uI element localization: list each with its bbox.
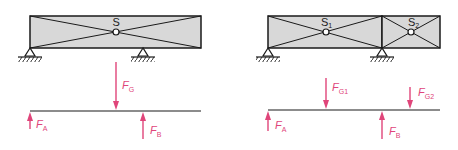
weight-force-1-label: FG1 — [332, 81, 348, 95]
pin-support-icon — [18, 48, 42, 62]
roller-support-icon — [370, 48, 394, 62]
weight-force-2-arrow-icon — [407, 87, 413, 109]
diagram-canvas: S FG FA FB — [0, 0, 458, 150]
weight-force-label: FG — [122, 79, 134, 93]
pin-support-icon — [256, 48, 280, 62]
support-force-a-arrow-icon — [265, 111, 271, 131]
right-beam-diagram: S1 S2 FG1 FG2 — [256, 16, 440, 139]
left-beam-diagram: S FG FA FB — [18, 16, 201, 139]
support-force-a-arrow-icon — [27, 112, 33, 129]
support-force-b-arrow-icon — [140, 112, 146, 139]
center-of-gravity-label: S — [113, 16, 120, 28]
weight-force-2-label: FG2 — [418, 86, 434, 100]
center-of-gravity-2-icon — [408, 29, 414, 35]
center-of-gravity-icon — [113, 29, 119, 35]
support-force-b-label: FB — [389, 125, 401, 139]
roller-support-icon — [131, 48, 155, 62]
support-force-a-label: FA — [36, 118, 48, 132]
weight-force-arrow-icon — [113, 62, 119, 110]
support-force-b-arrow-icon — [379, 111, 385, 139]
weight-force-1-arrow-icon — [323, 78, 329, 109]
support-force-b-label: FB — [150, 124, 162, 138]
center-of-gravity-1-icon — [323, 29, 329, 35]
support-force-a-label: FA — [275, 119, 287, 133]
